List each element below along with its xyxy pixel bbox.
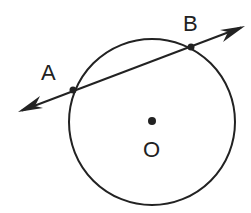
point-a (70, 87, 77, 94)
point-o (148, 117, 156, 125)
label-o: O (143, 137, 160, 162)
label-a: A (41, 60, 56, 85)
point-b (188, 44, 195, 51)
diagram-canvas: A B O (0, 0, 251, 213)
label-b: B (183, 11, 198, 36)
